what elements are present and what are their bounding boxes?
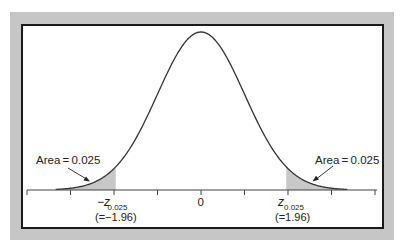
pos-z-label: z: [277, 195, 284, 209]
right-arrow-icon: [313, 166, 334, 182]
right-area-annotation: Area = 0.025: [315, 154, 379, 166]
left-arrow-icon: [68, 168, 90, 182]
x-axis-ticks: [27, 190, 375, 195]
neg-z-value: (=−1.96): [95, 211, 137, 223]
shaded-tail-regions: [56, 167, 347, 190]
pos-z-value: (=1.96): [275, 211, 310, 223]
left-area-annotation: Area = 0.025: [36, 154, 100, 166]
normal-distribution-chart: Area = 0.025 Area = 0.025 −z 0.025 (=−1.…: [0, 0, 407, 252]
zero-label: 0: [198, 196, 204, 208]
